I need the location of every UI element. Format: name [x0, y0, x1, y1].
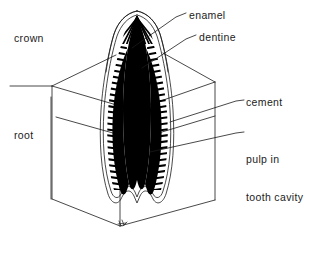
label-pulp: pulp in tooth cavity [246, 128, 303, 228]
label-cement: cement [246, 96, 283, 109]
label-enamel: enamel [189, 9, 226, 22]
label-crown: crown [14, 32, 44, 45]
enamel-apex-hatch [118, 17, 156, 46]
label-dentine: dentine [199, 31, 236, 44]
label-root: root [14, 129, 34, 142]
label-pulp-line1: pulp in [246, 153, 303, 166]
pulp-cavity [123, 20, 151, 189]
label-pulp-line2: tooth cavity [246, 191, 303, 204]
tooth-anatomy-diagram: crown root enamel dentine cement pulp in… [0, 0, 320, 258]
